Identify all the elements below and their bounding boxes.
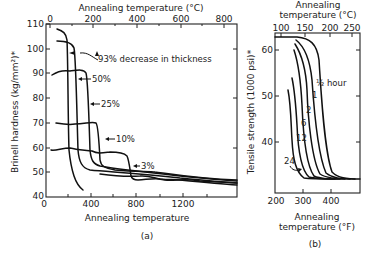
y-tick-label: 110 — [27, 19, 44, 29]
x-tick-label: 400 — [82, 199, 99, 209]
top-tick-label: 400 — [128, 14, 145, 24]
y-tick-label: 70 — [33, 118, 45, 128]
panel-a-y-axis-title: Brinell hardness (kg/mm²)* — [10, 50, 20, 173]
label-3pct: 3% — [141, 161, 155, 171]
panel-b-top-axis-title-1: Annealing — [295, 0, 340, 10]
label-24h: 24 — [284, 156, 295, 166]
panel-b-x-axis-title-2: temperature (°F) — [279, 222, 355, 232]
label-6h: 6 — [301, 118, 306, 128]
arrow-head — [133, 164, 137, 168]
top-tick-label: 600 — [172, 14, 189, 24]
x-tick-label: 800 — [127, 199, 144, 209]
curve-1h — [296, 40, 355, 179]
top-tick-label: 250 — [343, 23, 360, 33]
y-tick-label: 100 — [27, 44, 44, 54]
panel-b-caption: (b) — [309, 239, 322, 249]
figure: Annealing temperature (°C) 0 200 400 600… — [0, 0, 372, 260]
y-tick-label: 80 — [33, 93, 45, 103]
top-tick-label: 800 — [215, 14, 232, 24]
y-tick-label: 60 — [262, 45, 274, 55]
top-tick-label: 100 — [272, 23, 289, 33]
top-tick-label: 0 — [47, 14, 53, 24]
panel-b-x-axis-title-1: Annealing — [294, 212, 339, 222]
x-ticks — [68, 193, 207, 197]
top-ticks — [50, 24, 224, 28]
arrow-head — [69, 51, 75, 55]
y-tick-label: 60 — [33, 143, 45, 153]
y-tick-label: 90 — [33, 68, 45, 78]
label-93pct: 93% decrease in thickness — [98, 54, 212, 64]
label-50pct: 50% — [92, 74, 111, 84]
panel-b: Annealing temperature (°C) 100 150 200 2… — [246, 0, 361, 249]
label-25pct: 25% — [101, 99, 120, 109]
label-10pct: 10% — [116, 134, 135, 144]
x-tick-label: 1200 — [172, 199, 195, 209]
label-1h: 1 — [312, 90, 317, 100]
y-ticks — [46, 24, 237, 172]
label-half-hour: ½ hour — [316, 78, 347, 88]
panel-a-top-axis-title: Annealing temperature (°C) — [78, 3, 203, 13]
panel-a: Annealing temperature (°C) 0 200 400 600… — [10, 3, 237, 241]
label-2h: 2 — [306, 105, 311, 115]
y-tick-label: 50 — [33, 167, 45, 177]
x-tick-label: 200 — [267, 196, 284, 206]
top-tick-label: 150 — [296, 23, 313, 33]
panel-a-x-axis-title: Annealing temperature — [85, 213, 190, 223]
top-tick-label: 200 — [84, 14, 101, 24]
panel-b-top-axis-title-2: temperature (°C) — [279, 10, 356, 20]
arrow-head — [90, 102, 94, 106]
arrow-head — [78, 77, 82, 81]
x-tick-label: 300 — [294, 196, 311, 206]
curve-10pct — [56, 122, 237, 180]
y-tick-label: 50 — [262, 91, 274, 101]
label-arrow — [80, 53, 98, 60]
panel-a-caption: (a) — [141, 231, 154, 241]
y-tick-label: 40 — [262, 137, 274, 147]
arrow-head — [105, 137, 109, 141]
panel-b-y-axis-title: Tensile strength (1000 psi)* — [246, 49, 256, 175]
x-tick-label: 400 — [322, 196, 339, 206]
top-tick-label: 200 — [321, 23, 338, 33]
label-12h: 12 — [296, 133, 307, 143]
x-tick-label: 0 — [41, 199, 47, 209]
